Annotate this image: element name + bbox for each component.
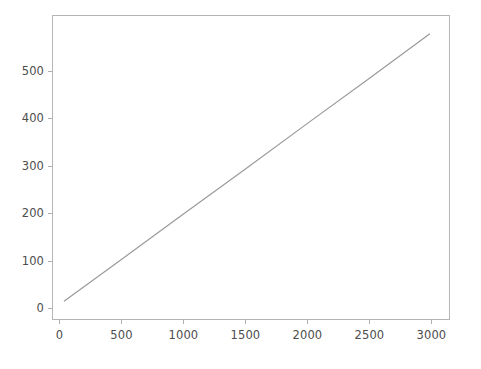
x-tick-mark bbox=[121, 320, 122, 324]
x-tick-mark bbox=[369, 320, 370, 324]
x-tick-mark bbox=[307, 320, 308, 324]
y-tick-label: 0 bbox=[4, 301, 44, 315]
y-tick-mark bbox=[48, 261, 52, 262]
y-tick-mark bbox=[48, 118, 52, 119]
x-tick-label: 3000 bbox=[417, 328, 447, 342]
x-tick-label: 1500 bbox=[231, 328, 261, 342]
y-tick-mark bbox=[48, 166, 52, 167]
x-tick-label: 2500 bbox=[355, 328, 385, 342]
y-tick-mark bbox=[48, 213, 52, 214]
x-tick-mark bbox=[245, 320, 246, 324]
x-tick-mark bbox=[59, 320, 60, 324]
figure-canvas: 050010001500200025003000 010020030040050… bbox=[0, 0, 481, 369]
x-tick-mark bbox=[183, 320, 184, 324]
x-tick-label: 2000 bbox=[293, 328, 323, 342]
x-tick-mark bbox=[431, 320, 432, 324]
y-tick-label: 500 bbox=[4, 64, 44, 78]
y-tick-mark bbox=[48, 308, 52, 309]
y-tick-label: 100 bbox=[4, 254, 44, 268]
y-tick-label: 400 bbox=[4, 111, 44, 125]
y-tick-mark bbox=[48, 71, 52, 72]
line-plot-svg bbox=[53, 16, 449, 319]
y-tick-label: 300 bbox=[4, 159, 44, 173]
data-series-line bbox=[64, 34, 429, 301]
x-tick-label: 1000 bbox=[169, 328, 199, 342]
x-tick-label: 500 bbox=[110, 328, 132, 342]
plot-axes-area bbox=[52, 15, 450, 320]
x-tick-label: 0 bbox=[56, 328, 63, 342]
y-tick-label: 200 bbox=[4, 206, 44, 220]
